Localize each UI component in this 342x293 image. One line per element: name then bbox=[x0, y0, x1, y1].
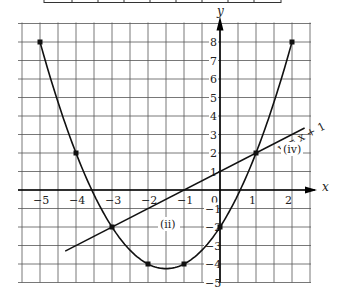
y-tick-label: 7 bbox=[210, 55, 217, 68]
plot-area bbox=[38, 40, 305, 269]
y-tick-label: 5 bbox=[210, 92, 217, 105]
value-table-fragment bbox=[44, 0, 281, 3]
axes bbox=[18, 17, 317, 283]
plotted-point-marker bbox=[110, 225, 115, 230]
x-tick-label: −3 bbox=[105, 194, 121, 207]
x-tick-label: −5 bbox=[33, 194, 49, 207]
y-tick-label: 2 bbox=[210, 147, 217, 160]
plotted-point-marker bbox=[290, 40, 295, 45]
plotted-point-marker bbox=[254, 151, 259, 156]
x-tick-label: −1 bbox=[177, 194, 193, 207]
x-tick-label: −4 bbox=[69, 194, 85, 207]
graph-figure: −5−4−3−2−101287654321−1−2−3−4−5 x y y = … bbox=[0, 0, 342, 293]
y-tick-label: −4 bbox=[205, 258, 221, 271]
plotted-point-marker bbox=[74, 151, 79, 156]
plotted-point-marker bbox=[182, 262, 187, 267]
x-axis-arrow-icon bbox=[305, 187, 317, 194]
plotted-point-marker bbox=[38, 40, 43, 45]
grid bbox=[18, 23, 311, 283]
y-tick-label: −1 bbox=[205, 203, 221, 216]
y-tick-label: 3 bbox=[210, 129, 217, 142]
y-tick-label: 8 bbox=[210, 36, 217, 49]
x-tick-label: 1 bbox=[249, 194, 256, 207]
y-tick-label: −3 bbox=[205, 240, 221, 253]
plotted-point-marker bbox=[146, 262, 151, 267]
y-tick-label: −5 bbox=[205, 277, 221, 290]
part-iv-label: (iv) bbox=[283, 143, 301, 156]
x-tick-label: 2 bbox=[285, 194, 292, 207]
tick-labels: −5−4−3−2−101287654321−1−2−3−4−5 bbox=[33, 36, 292, 290]
x-axis-label: x bbox=[322, 180, 329, 194]
part-ii-label: (ii) bbox=[160, 218, 176, 231]
y-tick-label: 6 bbox=[210, 73, 217, 86]
plotted-point-marker bbox=[218, 225, 223, 230]
y-axis-label: y bbox=[216, 4, 224, 18]
y-tick-label: 4 bbox=[210, 110, 217, 123]
